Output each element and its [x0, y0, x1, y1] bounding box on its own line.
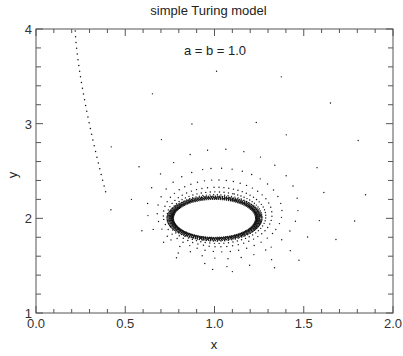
y-tick-label: 2: [25, 211, 32, 226]
x-tick-label: 2.0: [384, 316, 402, 331]
x-tick-label: 0.5: [116, 316, 134, 331]
x-axis-label: x: [211, 337, 218, 352]
x-tick-label: 1.5: [295, 316, 313, 331]
y-tick-label: 1: [25, 306, 32, 321]
y-axis-label: y: [5, 171, 20, 178]
y-tick-label: 4: [25, 22, 32, 37]
plot-frame: [36, 29, 393, 313]
y-tick-label: 3: [25, 117, 32, 132]
phase-plot: 0.00.51.01.52.01234 a = b = 1.0 x y: [0, 0, 403, 356]
x-tick-label: 1.0: [205, 316, 223, 331]
parameter-annotation: a = b = 1.0: [184, 43, 246, 58]
axes: 0.00.51.01.52.01234: [25, 22, 402, 331]
trajectory-points: [75, 30, 367, 272]
